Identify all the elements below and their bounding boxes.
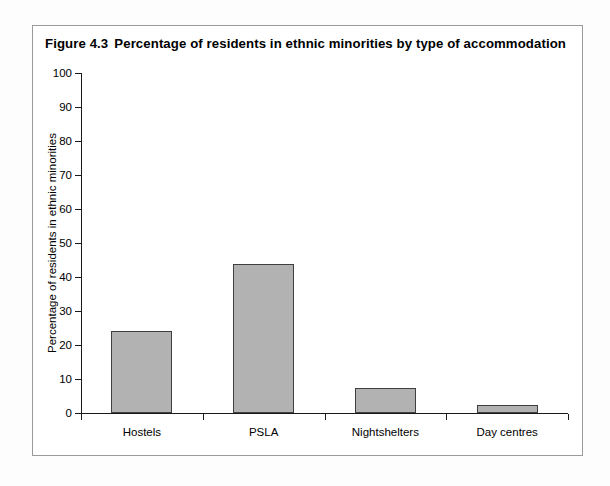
x-category-label: PSLA bbox=[249, 426, 278, 438]
y-tick-label: 30 bbox=[59, 305, 72, 317]
bar bbox=[355, 388, 416, 413]
y-tick-mark bbox=[75, 277, 81, 278]
x-category-label: Nightshelters bbox=[352, 426, 419, 438]
x-category-label: Day centres bbox=[476, 426, 537, 438]
y-axis-title: Percentage of residents in ethnic minori… bbox=[44, 73, 60, 413]
y-tick-label: 40 bbox=[59, 271, 72, 283]
y-tick-label: 0 bbox=[66, 407, 72, 419]
y-tick-label: 70 bbox=[59, 169, 72, 181]
y-tick-mark bbox=[75, 175, 81, 176]
scanned-page: Figure 4.3Percentage of residents in eth… bbox=[0, 0, 610, 486]
figure-number: Figure 4.3 bbox=[45, 36, 108, 51]
y-tick-label: 100 bbox=[53, 67, 72, 79]
y-tick-label: 10 bbox=[59, 373, 72, 385]
y-tick-mark bbox=[75, 379, 81, 380]
y-tick-mark bbox=[75, 209, 81, 210]
y-axis-line bbox=[81, 73, 82, 414]
y-tick-mark bbox=[75, 243, 81, 244]
figure-title-text: Percentage of residents in ethnic minori… bbox=[114, 36, 566, 51]
x-tick-mark bbox=[81, 414, 82, 420]
plot-area: 0102030405060708090100 HostelsPSLANights… bbox=[81, 73, 568, 413]
x-tick-mark bbox=[446, 414, 447, 420]
x-tick-mark bbox=[568, 414, 569, 420]
bar bbox=[233, 264, 294, 413]
y-tick-label: 20 bbox=[59, 339, 72, 351]
y-tick-mark bbox=[75, 73, 81, 74]
y-tick-label: 60 bbox=[59, 203, 72, 215]
figure-title: Figure 4.3Percentage of residents in eth… bbox=[45, 36, 575, 51]
x-tick-mark bbox=[325, 414, 326, 420]
y-tick-mark bbox=[75, 345, 81, 346]
bar bbox=[477, 405, 538, 413]
y-axis-title-text: Percentage of residents in ethnic minori… bbox=[46, 133, 58, 353]
bar bbox=[111, 331, 172, 413]
x-category-label: Hostels bbox=[123, 426, 161, 438]
x-tick-mark bbox=[203, 414, 204, 420]
y-tick-mark bbox=[75, 107, 81, 108]
y-tick-label: 80 bbox=[59, 135, 72, 147]
figure-frame: Figure 4.3Percentage of residents in eth… bbox=[32, 25, 583, 456]
y-tick-mark bbox=[75, 141, 81, 142]
y-tick-label: 50 bbox=[59, 237, 72, 249]
y-tick-mark bbox=[75, 311, 81, 312]
y-tick-label: 90 bbox=[59, 101, 72, 113]
